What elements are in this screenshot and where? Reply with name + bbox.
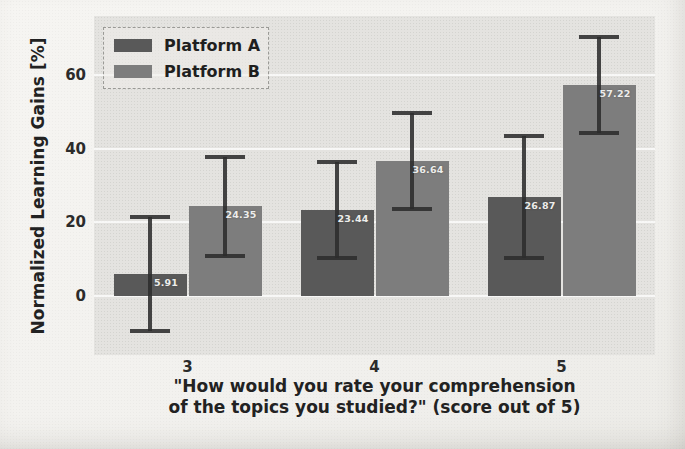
error-bar-cap-top — [504, 134, 544, 138]
error-bar-cap-top — [392, 111, 432, 115]
x-axis-title-line2: of the topics you studied?" (score out o… — [94, 397, 655, 418]
error-bar-line — [223, 157, 227, 256]
platform-a-swatch-icon — [114, 39, 152, 52]
legend-label-platform-b: Platform B — [164, 62, 260, 81]
y-tick-label: 60 — [40, 66, 86, 84]
error-bar-line — [410, 113, 414, 209]
y-tick-label: 20 — [40, 213, 86, 231]
x-tick-label: 3 — [168, 358, 208, 376]
bar-value-label: 36.64 — [392, 164, 465, 175]
error-bar-line — [148, 217, 152, 331]
error-bar-cap-bottom — [579, 131, 619, 135]
bar-value-label: 57.22 — [579, 88, 652, 99]
error-bar-cap-top — [579, 35, 619, 39]
error-bar-cap-top — [205, 155, 245, 159]
legend: Platform A Platform B — [103, 27, 269, 89]
error-bar-line — [522, 136, 526, 258]
legend-label-platform-a: Platform A — [164, 36, 260, 55]
error-bar-cap-bottom — [130, 329, 170, 333]
x-tick-label: 5 — [542, 358, 582, 376]
error-bar-cap-bottom — [504, 256, 544, 260]
platform-b-swatch-icon — [114, 65, 152, 78]
x-axis-title-line1: "How would you rate your comprehension — [94, 376, 655, 397]
y-tick-label: 0 — [40, 287, 86, 305]
legend-entry-platform-a: Platform A — [114, 36, 258, 55]
error-bar-line — [335, 162, 339, 258]
legend-entry-platform-b: Platform B — [114, 62, 258, 81]
error-bar-cap-bottom — [205, 254, 245, 258]
bar-value-label: 24.35 — [205, 209, 278, 220]
chart-figure: Normalized Learning Gains [%] 5.9124.352… — [0, 0, 685, 449]
error-bar-cap-top — [317, 160, 357, 164]
y-tick-label: 40 — [40, 140, 86, 158]
error-bar-cap-bottom — [392, 207, 432, 211]
error-bar-line — [597, 37, 601, 133]
x-tick-label: 4 — [355, 358, 395, 376]
error-bar-cap-bottom — [317, 256, 357, 260]
error-bar-cap-top — [130, 215, 170, 219]
